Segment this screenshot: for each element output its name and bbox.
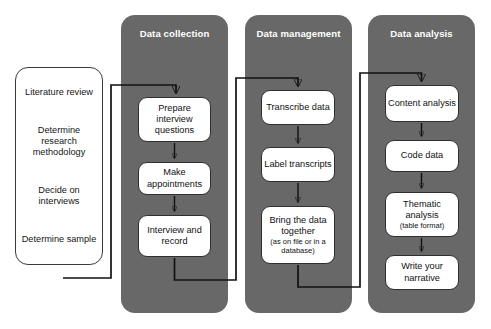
phase-title-data-analysis: Data analysis <box>368 28 475 40</box>
preparation-item-decide-on-interviews: Decide on interviews <box>20 185 98 208</box>
step-content-analysis[interactable]: Content analysis <box>385 85 459 122</box>
phase-title-data-management: Data management <box>245 28 352 40</box>
step-write-your-narrative[interactable]: Write your narrative <box>385 255 459 290</box>
step-transcribe-data[interactable]: Transcribe data <box>261 90 335 125</box>
step-make-appointments[interactable]: Make appointments <box>138 162 211 195</box>
step-label: Interview and record <box>139 225 210 247</box>
step-prepare-interview-questions[interactable]: Prepare interview questions <box>138 97 211 142</box>
step-interview-and-record[interactable]: Interview and record <box>138 215 211 257</box>
step-thematic-analysis[interactable]: Thematic analysis (table format) <box>385 192 459 237</box>
step-sublabel: (as on file or in a database) <box>262 237 334 256</box>
step-sublabel: (table format) <box>400 221 445 230</box>
step-label: Label transcripts <box>264 159 331 170</box>
step-label: Thematic analysis <box>386 199 458 221</box>
step-label-transcripts[interactable]: Label transcripts <box>261 147 335 182</box>
step-label: Bring the data together <box>262 215 334 237</box>
preparation-item-research-methodology: Determine research methodology <box>20 125 98 159</box>
preparation-item-literature-review: Literature review <box>20 87 98 98</box>
step-label: Content analysis <box>388 98 456 109</box>
phase-title-data-collection: Data collection <box>121 28 228 40</box>
step-label: Prepare interview questions <box>139 103 210 137</box>
step-bring-the-data-together[interactable]: Bring the data together (as on file or i… <box>261 206 335 264</box>
step-label: Make appointments <box>139 167 210 189</box>
preparation-column[interactable]: Literature review Determine research met… <box>15 67 103 265</box>
preparation-item-determine-sample: Determine sample <box>20 234 98 245</box>
diagram-canvas: Data collection Data management Data ana… <box>0 0 491 329</box>
step-label: Code data <box>401 150 443 161</box>
step-label: Write your narrative <box>386 261 458 283</box>
step-label: Transcribe data <box>266 102 330 113</box>
step-code-data[interactable]: Code data <box>385 140 459 172</box>
